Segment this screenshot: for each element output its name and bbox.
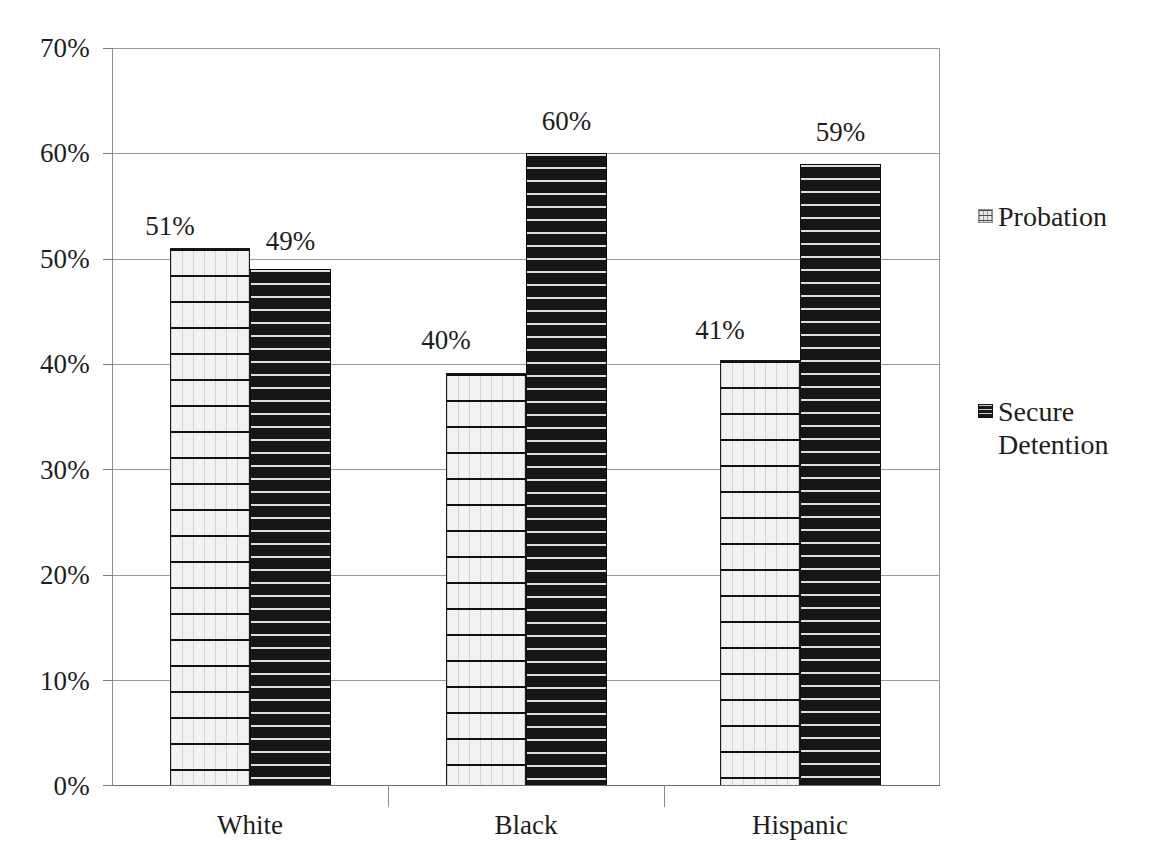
gridline-0-baseline: [112, 785, 940, 786]
bar-hispanic-probation[interactable]: [720, 360, 800, 785]
bar-black-probation[interactable]: [446, 373, 526, 785]
y-axis-label-60: 60%: [0, 140, 90, 167]
y-tick-20: [103, 575, 113, 576]
y-axis-line: [112, 48, 113, 785]
bar-chart: 70% 60% 50% 40% 30% 20% 10% 0%: [0, 0, 1154, 865]
data-label-white-secure-detention: 49%: [250, 228, 331, 255]
y-tick-70: [103, 48, 113, 49]
y-axis-label-0: 0%: [0, 773, 90, 800]
y-axis-label-70: 70%: [0, 35, 90, 62]
category-label-hispanic: Hispanic: [720, 812, 880, 839]
y-tick-60: [103, 153, 113, 154]
plot-area: [112, 48, 940, 785]
y-tick-40: [103, 364, 113, 365]
category-tick-2: [664, 785, 665, 807]
bar-hispanic-secure-detention[interactable]: [800, 164, 881, 785]
data-label-black-probation: 40%: [406, 327, 486, 354]
legend-label-secure-detention-line2: Detention: [998, 428, 1108, 461]
category-tick-1: [388, 785, 389, 807]
category-label-white: White: [170, 812, 330, 839]
y-tick-30: [103, 469, 113, 470]
y-tick-50: [103, 259, 113, 260]
legend-label-secure-detention: Secure Detention: [998, 395, 1108, 461]
y-tick-10: [103, 680, 113, 681]
y-axis-label-10: 10%: [0, 668, 90, 695]
data-label-white-probation: 51%: [130, 213, 210, 240]
bar-white-probation[interactable]: [170, 248, 250, 785]
data-label-hispanic-secure-detention: 59%: [800, 119, 881, 146]
category-label-black: Black: [446, 812, 606, 839]
plot-right-border: [939, 48, 940, 785]
data-label-black-secure-detention: 60%: [526, 108, 607, 135]
y-axis-label-50: 50%: [0, 246, 90, 273]
legend-entry-secure-detention[interactable]: Secure Detention: [978, 395, 1108, 461]
y-tick-0: [103, 785, 113, 786]
gridline-70: [112, 48, 940, 49]
legend-swatch-secure-detention-icon: [978, 404, 993, 418]
legend-entry-probation[interactable]: Probation: [978, 200, 1107, 233]
bar-black-secure-detention[interactable]: [526, 153, 607, 785]
legend-label-secure-detention-line1: Secure: [998, 396, 1074, 427]
y-axis-label-30: 30%: [0, 457, 90, 484]
data-label-hispanic-probation: 41%: [680, 317, 760, 344]
legend-swatch-probation-icon: [978, 209, 993, 223]
y-axis-label-40: 40%: [0, 351, 90, 378]
bar-white-secure-detention[interactable]: [250, 269, 331, 785]
y-axis-label-20: 20%: [0, 562, 90, 589]
legend-label-probation: Probation: [998, 200, 1107, 233]
